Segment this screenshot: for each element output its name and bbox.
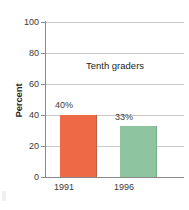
y-tick-label-60: 60 <box>13 80 39 89</box>
y-tick-label-0: 0 <box>13 173 39 182</box>
x-tick-label-1996: 1996 <box>102 182 146 192</box>
y-tick-label-100: 100 <box>13 18 39 27</box>
gridline-100 <box>46 22 184 23</box>
page-edge-artifact <box>2 191 6 201</box>
gridline-60 <box>46 84 184 85</box>
bar-value-label-1991: 40% <box>42 100 86 110</box>
chart-title: Tenth graders <box>46 60 184 71</box>
gridline-baseline-0 <box>46 177 184 178</box>
bar-1996[interactable] <box>120 126 157 177</box>
bar-chart-figure: Percent 100 80 60 40 20 0 40% 33% Ten <box>0 0 189 210</box>
x-tick-label-1991: 1991 <box>42 182 86 192</box>
y-tick-label-20: 20 <box>13 142 39 151</box>
y-axis-tick-labels: 100 80 60 40 20 0 <box>11 0 39 210</box>
gridline-80 <box>46 53 184 54</box>
y-tick-label-40: 40 <box>13 111 39 120</box>
bar-1991[interactable] <box>60 115 97 177</box>
bar-1996-fill <box>120 126 157 177</box>
bar-value-label-1996: 33% <box>102 112 146 122</box>
y-tick-label-80: 80 <box>13 49 39 58</box>
bar-1991-fill <box>60 115 97 177</box>
